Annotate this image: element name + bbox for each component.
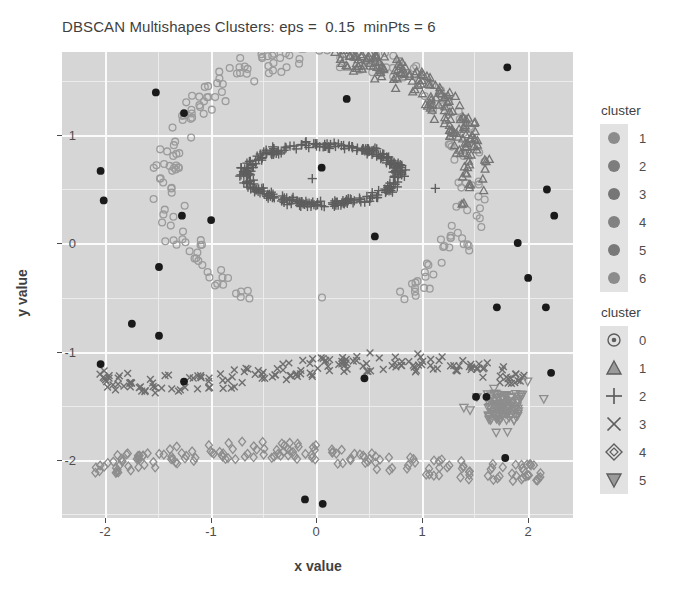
ytick-mark bbox=[57, 243, 62, 244]
xtick-label: 0 bbox=[312, 524, 319, 539]
xtick-mark bbox=[211, 518, 212, 523]
circle-icon bbox=[608, 160, 620, 172]
legend-shape-label: 5 bbox=[639, 473, 646, 488]
legend-shape-label: 2 bbox=[639, 389, 646, 404]
legend-color: cluster 123456 bbox=[600, 103, 646, 292]
xtick-label: -2 bbox=[99, 524, 111, 539]
legend-shape-label: 3 bbox=[639, 417, 646, 432]
plus-icon bbox=[604, 386, 624, 406]
plot-panel bbox=[62, 52, 573, 518]
legend-shape-item[interactable]: 4 bbox=[600, 438, 646, 466]
legend-shape-swatch bbox=[600, 466, 628, 494]
legend-shape-label: 0 bbox=[639, 333, 646, 348]
legend-shape-label: 1 bbox=[639, 361, 646, 376]
legend-color-label: 2 bbox=[639, 159, 646, 174]
legend-shape-item[interactable]: 1 bbox=[600, 354, 646, 382]
legend-color-swatch bbox=[600, 124, 628, 152]
ytick-label: -1 bbox=[64, 345, 76, 360]
legend-shape-label: 4 bbox=[639, 445, 646, 460]
legend-color-item[interactable]: 2 bbox=[600, 152, 646, 180]
circle-icon bbox=[608, 216, 620, 228]
xtick-label: 1 bbox=[418, 524, 425, 539]
xtick-mark bbox=[105, 518, 106, 523]
legend-shape-item[interactable]: 3 bbox=[600, 410, 646, 438]
legend-shape-swatch bbox=[600, 354, 628, 382]
triangle-icon bbox=[604, 358, 624, 378]
ytick-label: 1 bbox=[69, 128, 76, 143]
legend-color-swatch bbox=[600, 208, 628, 236]
circle-icon bbox=[608, 244, 620, 256]
legend-color-swatch bbox=[600, 236, 628, 264]
x-icon bbox=[604, 414, 624, 434]
legend-color-title: cluster bbox=[601, 103, 646, 118]
legend-shape-swatch bbox=[600, 326, 628, 354]
legend-color-item[interactable]: 6 bbox=[600, 264, 646, 292]
legend-shape-swatch bbox=[600, 382, 628, 410]
legend-shape-item[interactable]: 5 bbox=[600, 466, 646, 494]
legend-shape: cluster 012345 bbox=[600, 305, 646, 494]
legend-color-swatch bbox=[600, 180, 628, 208]
circle-icon bbox=[608, 272, 620, 284]
legend-color-swatch bbox=[600, 152, 628, 180]
legend-color-label: 1 bbox=[639, 131, 646, 146]
xtick-mark bbox=[528, 518, 529, 523]
x-axis-title: x value bbox=[0, 558, 636, 574]
legend-color-label: 5 bbox=[639, 243, 646, 258]
chart-title: DBSCAN Multishapes Clusters: eps = 0.15 … bbox=[62, 18, 436, 35]
legend-color-item[interactable]: 1 bbox=[600, 124, 646, 152]
ytick-mark bbox=[57, 135, 62, 136]
circle-dot-icon bbox=[604, 330, 624, 350]
ytick-mark bbox=[57, 352, 62, 353]
xtick-label: -1 bbox=[205, 524, 217, 539]
ytick-label: 0 bbox=[69, 236, 76, 251]
triangle-down-icon bbox=[604, 470, 624, 490]
legend-shape-swatch bbox=[600, 438, 628, 466]
xtick-label: 2 bbox=[524, 524, 531, 539]
ytick-mark bbox=[57, 460, 62, 461]
scatter-points-layer bbox=[62, 52, 573, 518]
legend-shape-swatch bbox=[600, 410, 628, 438]
legend-color-label: 6 bbox=[639, 271, 646, 286]
legend-color-label: 4 bbox=[639, 215, 646, 230]
legend-shape-item[interactable]: 0 bbox=[600, 326, 646, 354]
xtick-mark bbox=[316, 518, 317, 523]
chart-figure: DBSCAN Multishapes Clusters: eps = 0.15 … bbox=[0, 0, 680, 597]
legend-shape-rows: 012345 bbox=[600, 326, 646, 494]
diamond-icon bbox=[604, 442, 624, 462]
circle-icon bbox=[608, 132, 620, 144]
legend-shape-title: cluster bbox=[601, 305, 646, 320]
legend-color-item[interactable]: 4 bbox=[600, 208, 646, 236]
xtick-mark bbox=[422, 518, 423, 523]
legend-shape-item[interactable]: 2 bbox=[600, 382, 646, 410]
legend-color-item[interactable]: 3 bbox=[600, 180, 646, 208]
legend-color-label: 3 bbox=[639, 187, 646, 202]
ytick-label: -2 bbox=[64, 453, 76, 468]
legend-color-item[interactable]: 5 bbox=[600, 236, 646, 264]
legend-color-swatch bbox=[600, 264, 628, 292]
y-axis-title: y value bbox=[14, 223, 30, 363]
legend-color-rows: 123456 bbox=[600, 124, 646, 292]
circle-icon bbox=[608, 188, 620, 200]
